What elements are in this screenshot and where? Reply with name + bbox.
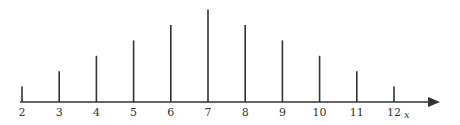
tick-label-8: 8 xyxy=(242,106,249,119)
tick-label-9: 9 xyxy=(279,106,286,119)
tick-label-3: 3 xyxy=(56,106,63,119)
tick-label-5: 5 xyxy=(130,106,137,119)
tick-labels: 23456789101112 xyxy=(19,106,402,119)
tick-label-12: 12 xyxy=(387,106,401,119)
stem-chart: 23456789101112 x xyxy=(0,0,460,125)
x-axis-arrowhead-icon xyxy=(428,97,440,107)
tick-label-10: 10 xyxy=(313,106,327,119)
tick-label-7: 7 xyxy=(205,106,212,119)
x-axis-label: x xyxy=(404,109,410,120)
stems xyxy=(22,10,394,102)
tick-label-6: 6 xyxy=(167,106,174,119)
tick-label-11: 11 xyxy=(350,106,364,119)
tick-label-4: 4 xyxy=(93,106,100,119)
tick-label-2: 2 xyxy=(19,106,26,119)
